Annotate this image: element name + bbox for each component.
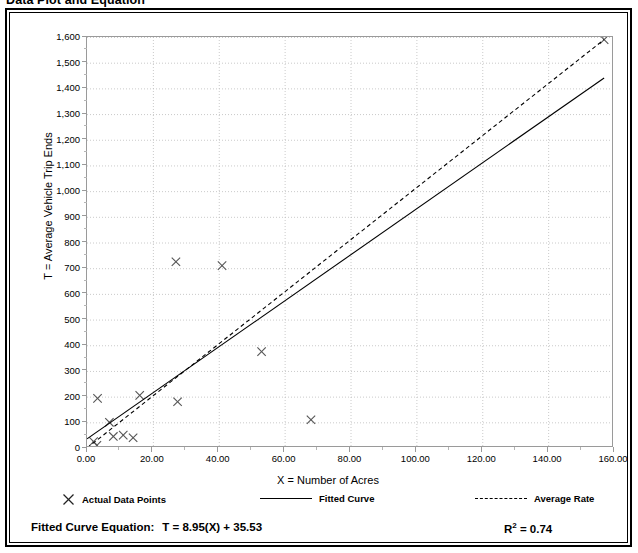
x-axis-minor-tick-mark (514, 447, 515, 450)
plot-area (87, 37, 612, 446)
y-axis-tick-mark (82, 344, 87, 345)
x-axis-minor-tick-mark (448, 447, 449, 450)
plot-frame (86, 36, 613, 447)
y-axis-tick-mark (82, 87, 87, 88)
fitted-curve-equation: Fitted Curve Equation:T = 8.95(X) + 35.5… (31, 521, 262, 533)
x-marker-icon (62, 493, 75, 506)
y-axis-tick-label: 400 (6, 339, 80, 350)
y-axis-minor-tick-mark (84, 151, 87, 152)
legend-label: Average Rate (534, 493, 594, 504)
x-axis-tick-label: 20.00 (140, 453, 164, 464)
y-axis-minor-tick-mark (84, 305, 87, 306)
x-axis-tick-mark (547, 447, 548, 452)
y-axis-tick-label: 1,400 (6, 82, 80, 93)
x-axis-minor-tick-mark (316, 447, 317, 450)
y-axis-tick-labels: 01002003004005006007008009001,0001,1001,… (0, 0, 80, 553)
y-axis-tick-mark (82, 61, 87, 62)
x-axis-title: X = Number of Acres (0, 474, 638, 486)
chart-page: Data Plot and Equation 01002003004005006… (0, 0, 638, 553)
y-axis-minor-tick-mark (84, 228, 87, 229)
y-axis-tick-label: 1,600 (6, 31, 80, 42)
chart-legend: Actual Data Points Fitted Curve Average … (0, 493, 638, 511)
r-squared-number: = 0.74 (517, 523, 553, 535)
x-axis-tick-mark (349, 447, 350, 452)
x-axis-title-text: X = Number of Acres (259, 474, 379, 486)
x-axis-tick-label: 160.00 (598, 453, 627, 464)
y-axis-tick-mark (82, 190, 87, 191)
x-axis-tick-mark (613, 447, 614, 452)
y-axis-tick-mark (82, 241, 87, 242)
x-axis-tick-mark (415, 447, 416, 452)
y-axis-tick-mark (82, 395, 87, 396)
y-axis-minor-tick-mark (84, 357, 87, 358)
y-axis-minor-tick-mark (84, 254, 87, 255)
y-axis-minor-tick-mark (84, 408, 87, 409)
y-axis-minor-tick-mark (84, 382, 87, 383)
y-axis-tick-mark (82, 369, 87, 370)
x-axis-minor-tick-mark (250, 447, 251, 450)
x-axis-tick-label: 40.00 (206, 453, 230, 464)
y-axis-tick-label: 100 (6, 416, 80, 427)
x-axis-tick-label: 80.00 (338, 453, 362, 464)
y-axis-minor-tick-mark (84, 48, 87, 49)
y-axis-minor-tick-mark (84, 202, 87, 203)
y-axis-tick-label: 0 (6, 442, 80, 453)
legend-label: Fitted Curve (319, 493, 374, 504)
x-axis-tick-mark (151, 447, 152, 452)
y-axis-tick-mark (82, 318, 87, 319)
y-axis-minor-tick-mark (84, 125, 87, 126)
x-axis-minor-tick-mark (580, 447, 581, 450)
y-axis-tick-mark (82, 421, 87, 422)
y-axis-tick-mark (82, 138, 87, 139)
y-axis-minor-tick-mark (84, 280, 87, 281)
y-axis-minor-tick-mark (84, 434, 87, 435)
x-axis-tick-label: 0.00 (77, 453, 96, 464)
y-axis-tick-label: 300 (6, 364, 80, 375)
x-axis-tick-labels: 0.0020.0040.0060.0080.00100.00120.00140.… (0, 453, 638, 469)
legend-item-average-rate: Average Rate (475, 493, 594, 504)
equation-value: T = 8.95(X) + 35.53 (154, 521, 262, 533)
x-axis-minor-tick-mark (382, 447, 383, 450)
y-axis-title: T = Average Vehicle Trip Ends (42, 96, 54, 316)
solid-line-icon (260, 498, 312, 499)
x-axis-tick-label: 100.00 (401, 453, 430, 464)
y-axis-tick-mark (82, 164, 87, 165)
y-axis-tick-mark (82, 113, 87, 114)
y-axis-minor-tick-mark (84, 74, 87, 75)
x-axis-tick-mark (217, 447, 218, 452)
y-axis-minor-tick-mark (84, 331, 87, 332)
y-axis-tick-label: 1,500 (6, 56, 80, 67)
y-axis-minor-tick-mark (84, 100, 87, 101)
x-axis-tick-label: 60.00 (272, 453, 296, 464)
y-axis-minor-tick-mark (84, 177, 87, 178)
plot-svg (87, 37, 612, 446)
y-axis-tick-mark (82, 215, 87, 216)
legend-item-actual-data-points: Actual Data Points (62, 493, 166, 506)
x-axis-minor-tick-mark (184, 447, 185, 450)
legend-item-fitted-curve: Fitted Curve (260, 493, 374, 504)
y-axis-tick-mark (82, 267, 87, 268)
equation-row: Fitted Curve Equation:T = 8.95(X) + 35.5… (0, 521, 638, 541)
y-axis-tick-mark (82, 292, 87, 293)
x-axis-tick-label: 120.00 (467, 453, 496, 464)
equation-label: Fitted Curve Equation: (31, 521, 154, 533)
x-axis-tick-mark (86, 447, 87, 452)
x-axis-minor-tick-mark (118, 447, 119, 450)
dashed-line-icon (475, 498, 527, 499)
legend-label: Actual Data Points (82, 494, 166, 505)
y-axis-tick-label: 200 (6, 390, 80, 401)
x-axis-tick-mark (283, 447, 284, 452)
x-axis-tick-mark (481, 447, 482, 452)
x-axis-tick-label: 140.00 (533, 453, 562, 464)
y-axis-tick-mark (82, 36, 87, 37)
r-squared-value: R2 = 0.74 (504, 521, 552, 535)
